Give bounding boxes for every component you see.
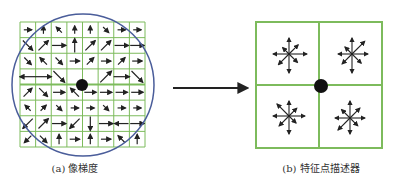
sift-diagram [0, 0, 394, 185]
descriptor-panel [256, 22, 382, 148]
keypoint-dot [314, 79, 328, 93]
gradient-arrow [70, 119, 80, 129]
gradient-arrow [38, 40, 48, 50]
gradient-arrow [100, 71, 111, 82]
keypoint-dot [76, 79, 88, 91]
gradient-arrow [23, 119, 33, 129]
orientation-histogram [338, 38, 368, 73]
gradient-arrow [56, 105, 62, 111]
gradient-arrow [85, 40, 95, 50]
gradient-arrow [56, 58, 63, 65]
gradient-arrow [103, 105, 109, 111]
gradient-arrow [118, 58, 125, 65]
gradient-arrow [24, 58, 31, 65]
caption-image-gradient: (a) 像梯度 [52, 160, 99, 175]
gradient-arrow [132, 71, 143, 82]
gradient-arrow [103, 27, 109, 33]
gradient-arrow [56, 27, 62, 33]
caption-keypoint-descriptor: (b) 特征点描述器 [282, 160, 359, 175]
gradient-arrow [38, 119, 48, 129]
image-gradient-panel [12, 14, 154, 156]
gradient-arrow [41, 105, 47, 111]
gradient-arrow [53, 71, 64, 82]
orientation-histogram [273, 38, 307, 73]
gradient-arrow [24, 136, 31, 143]
gradient-arrow [24, 88, 32, 96]
gradient-arrow [118, 136, 125, 143]
gradient-arrow [40, 58, 47, 65]
gradient-arrow [39, 88, 47, 96]
orientation-histogram [335, 101, 365, 134]
gradient-arrow [70, 88, 78, 96]
orientation-histogram [273, 101, 305, 134]
gradient-arrow [25, 105, 31, 111]
gradient-arrow [101, 40, 111, 50]
gradient-arrow [87, 58, 94, 65]
